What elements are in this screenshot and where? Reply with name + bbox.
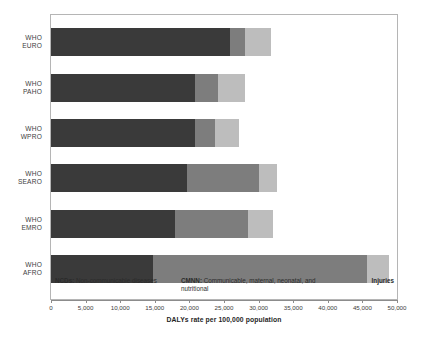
dalys-rate-stacked-bar-chart: WHOEUROWHOPAHOWHOWPROWHOSEAROWHOEMROWHOA… <box>0 0 423 346</box>
legend-ncd-text: Non-communicable diseases <box>74 277 157 284</box>
bar-segment-cmnn <box>187 164 259 192</box>
y-axis-label-who-paho: WHOPAHO <box>0 80 42 96</box>
x-tick-label: 35,000 <box>284 304 303 311</box>
x-tick <box>224 300 225 303</box>
x-tick <box>120 300 121 303</box>
y-label-line2: WPRO <box>0 133 42 141</box>
y-axis-label-who-emro: WHOEMRO <box>0 216 42 232</box>
x-tick-label: 25,000 <box>215 304 234 311</box>
bar-segment-ncds <box>51 119 195 147</box>
y-label-line1: WHO <box>0 125 42 133</box>
y-axis-category-labels: WHOEUROWHOPAHOWHOWPROWHOSEAROWHOEMROWHOA… <box>0 14 46 300</box>
bar-segment-ncds <box>51 28 230 56</box>
x-tick-label: 20,000 <box>180 304 199 311</box>
y-axis-label-who-euro: WHOEURO <box>0 34 42 50</box>
bar-segment-injuries <box>215 119 239 147</box>
x-tick-label: 40,000 <box>318 304 337 311</box>
y-axis-label-who-afro: WHOAFRO <box>0 261 42 277</box>
legend-item-ncd: NCDs: Non-communicable diseases <box>55 277 173 285</box>
y-label-line1: WHO <box>0 261 42 269</box>
y-axis-label-who-searo: WHOSEARO <box>0 170 42 186</box>
x-tick <box>86 300 87 303</box>
y-label-line2: EMRO <box>0 224 42 232</box>
x-tick-label: 50,000 <box>388 304 407 311</box>
bar-segment-injuries <box>248 210 273 238</box>
bar-segment-ncds <box>51 210 175 238</box>
x-axis-title: DALYs rate per 100,000 population <box>51 316 397 323</box>
x-tick-label: 0 <box>49 304 52 311</box>
x-tick-label: 30,000 <box>249 304 268 311</box>
x-tick <box>328 300 329 303</box>
legend-ncd-key: NCDs: <box>55 277 74 284</box>
legend-cmnn-text: Communicable, maternal, neonatal, and nu… <box>181 277 315 292</box>
bars-layer <box>51 14 397 300</box>
y-label-line2: SEARO <box>0 178 42 186</box>
x-tick-label: 15,000 <box>145 304 164 311</box>
y-axis-label-who-wpro: WHOWPRO <box>0 125 42 141</box>
x-tick <box>189 300 190 303</box>
bar-segment-injuries <box>218 74 244 102</box>
y-label-line2: PAHO <box>0 88 42 96</box>
bar-segment-injuries <box>245 28 271 56</box>
x-tick <box>51 300 52 303</box>
x-tick-label: 10,000 <box>111 304 130 311</box>
bar-segment-injuries <box>259 164 277 192</box>
x-tick <box>259 300 260 303</box>
y-label-line2: EURO <box>0 42 42 50</box>
x-tick-label: 45,000 <box>353 304 372 311</box>
y-label-line1: WHO <box>0 80 42 88</box>
bar-segment-cmnn <box>195 119 215 147</box>
bar-segment-cmnn <box>195 74 219 102</box>
x-tick <box>397 300 398 303</box>
x-axis: 05,00010,00015,00020,00025,00030,00035,0… <box>51 300 397 314</box>
legend-item-cmnn: CMNN: Communicable, maternal, neonatal, … <box>181 277 341 292</box>
bar-segment-ncds <box>51 164 187 192</box>
bar-segment-cmnn <box>230 28 245 56</box>
y-label-line1: WHO <box>0 170 42 178</box>
x-tick <box>155 300 156 303</box>
legend-item-injuries: Injuries <box>372 277 394 285</box>
y-label-line1: WHO <box>0 34 42 42</box>
y-label-line2: AFRO <box>0 269 42 277</box>
legend-cmnn-key: CMNN: <box>181 277 202 284</box>
x-tick <box>293 300 294 303</box>
y-label-line1: WHO <box>0 216 42 224</box>
bar-segment-cmnn <box>175 210 248 238</box>
bar-segment-ncds <box>51 74 195 102</box>
x-tick <box>362 300 363 303</box>
chart-legend: NCDs: Non-communicable diseases CMNN: Co… <box>51 276 397 300</box>
x-tick-label: 5,000 <box>78 304 93 311</box>
